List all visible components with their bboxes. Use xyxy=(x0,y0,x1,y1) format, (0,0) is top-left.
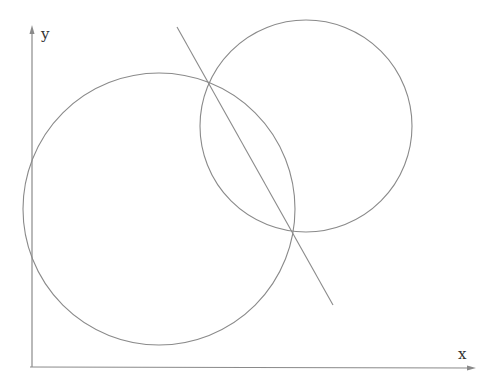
y-axis-arrow-icon xyxy=(30,25,35,34)
x-axis-arrow-icon xyxy=(467,366,476,371)
y-axis-label: y xyxy=(40,25,50,43)
x-axis-label: x xyxy=(458,345,467,363)
diagram-canvas: y x xyxy=(0,0,496,390)
large-circle xyxy=(23,73,295,345)
x-axis xyxy=(30,367,470,368)
small-circle xyxy=(200,20,412,232)
radical-axis-line xyxy=(177,27,333,305)
